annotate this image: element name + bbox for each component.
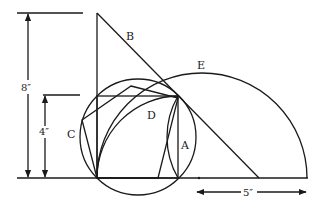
dim-8-label: 8″ bbox=[21, 82, 31, 93]
label-d: D bbox=[147, 109, 156, 122]
label-b: B bbox=[126, 30, 134, 43]
label-a: A bbox=[180, 139, 190, 152]
semicircle-e bbox=[97, 73, 307, 178]
label-e: E bbox=[197, 59, 205, 72]
center-tick bbox=[198, 177, 200, 179]
geometry-diagram: 8″ 4″ B A C D E 5″ bbox=[0, 0, 320, 210]
arc-c bbox=[97, 96, 178, 178]
dim-5-label: 5″ bbox=[243, 187, 253, 198]
label-c: C bbox=[67, 128, 75, 141]
dim-4-label: 4″ bbox=[39, 126, 49, 137]
square bbox=[97, 96, 178, 178]
